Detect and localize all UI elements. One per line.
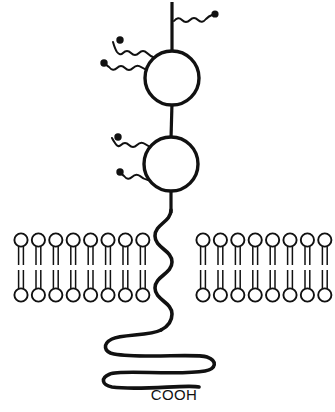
lipid-head-inner xyxy=(49,288,62,301)
lipid-head-outer xyxy=(318,233,331,246)
glycan-terminus-dot xyxy=(211,10,218,17)
lipid-head-inner xyxy=(301,288,314,301)
lipid-head-outer xyxy=(196,233,209,246)
glycan-chain-upper-left-b-wave xyxy=(103,64,150,70)
c-terminus-label: COOH xyxy=(151,386,198,403)
lipid-head-outer xyxy=(136,233,149,246)
lipid-head-inner xyxy=(196,288,209,301)
glycan-terminus-dot xyxy=(114,133,121,140)
glycan-chain-lower-left-b-wave xyxy=(120,173,148,180)
lipid-head-outer xyxy=(214,233,227,246)
lipid-head-outer xyxy=(84,233,97,246)
lipid-molecule xyxy=(67,233,80,301)
transmembrane-serpentine xyxy=(155,210,172,330)
lipid-head-outer xyxy=(119,233,132,246)
lipid-head-inner xyxy=(283,288,296,301)
lipid-head-inner xyxy=(136,288,149,301)
lipid-head-outer xyxy=(231,233,244,246)
glycan-chain-top-right-wave xyxy=(174,15,212,22)
lipid-molecule xyxy=(301,233,314,301)
lipid-head-outer xyxy=(49,233,62,246)
glycan-chain-upper-left-b xyxy=(100,59,150,70)
lipid-head-inner xyxy=(67,288,80,301)
lipid-head-inner xyxy=(101,288,114,301)
lipid-molecule xyxy=(84,233,97,301)
cytoplasmic-coil xyxy=(103,330,214,388)
upper-globular-domain xyxy=(145,51,199,105)
membrane-glycoprotein-figure: COOH xyxy=(0,0,335,412)
glycan-chain-upper-left-a xyxy=(113,36,155,58)
lipid-molecule xyxy=(101,233,114,301)
lipid-molecule xyxy=(196,233,209,301)
lipid-head-outer xyxy=(249,233,262,246)
lipid-head-inner xyxy=(14,288,27,301)
lower-globular-domain xyxy=(144,137,198,191)
lipid-head-inner xyxy=(32,288,45,301)
lipid-head-inner xyxy=(231,288,244,301)
glycan-chain-top-right xyxy=(174,10,219,22)
lipid-molecule xyxy=(119,233,132,301)
lipid-molecule xyxy=(214,233,227,301)
lipid-molecule xyxy=(136,233,149,301)
lipid-head-inner xyxy=(249,288,262,301)
membrane-patch-left xyxy=(14,233,149,301)
lipid-molecule xyxy=(249,233,262,301)
glycan-chain-upper-left-a-wave xyxy=(113,42,155,58)
lipid-head-outer xyxy=(266,233,279,246)
lipid-molecule xyxy=(14,233,27,301)
membrane-patch-right xyxy=(196,233,331,301)
lipid-head-inner xyxy=(214,288,227,301)
lipid-head-inner xyxy=(266,288,279,301)
lipid-head-inner xyxy=(119,288,132,301)
glycan-chain-lower-left-a xyxy=(112,133,154,148)
lipid-head-outer xyxy=(14,233,27,246)
lipid-head-outer xyxy=(283,233,296,246)
lipid-head-inner xyxy=(318,288,331,301)
glycan-terminus-dot xyxy=(116,168,123,175)
lipid-molecule xyxy=(266,233,279,301)
lipid-head-outer xyxy=(32,233,45,246)
lipid-molecule xyxy=(231,233,244,301)
diagram-canvas: COOH xyxy=(0,0,335,412)
lipid-molecule xyxy=(283,233,296,301)
glycan-terminus-dot xyxy=(100,59,107,66)
lipid-molecule xyxy=(318,233,331,301)
lipid-head-outer xyxy=(67,233,80,246)
lipid-head-outer xyxy=(301,233,314,246)
lipid-head-inner xyxy=(84,288,97,301)
interdomain-linker xyxy=(171,103,172,139)
glycan-terminus-dot xyxy=(116,36,123,43)
lipid-head-outer xyxy=(101,233,114,246)
lipid-molecule xyxy=(32,233,45,301)
lipid-molecule xyxy=(49,233,62,301)
